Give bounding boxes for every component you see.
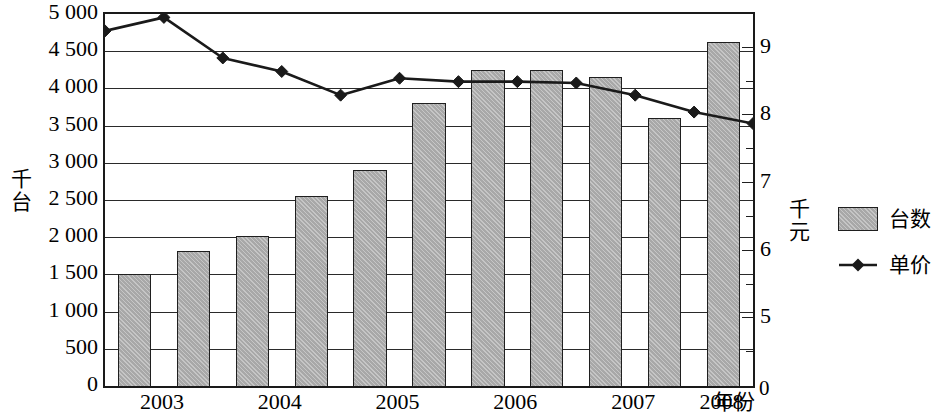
legend-item[interactable]: 单价 xyxy=(838,242,946,288)
right-axis-tick-label: 6 xyxy=(760,238,782,260)
bar xyxy=(295,196,328,386)
left-axis-tick-label: 2 500 xyxy=(18,187,98,209)
left-axis-tick-label: 3 500 xyxy=(18,113,98,135)
x-axis-title: 年份 xyxy=(713,390,755,414)
right-axis-tick-label: 9 xyxy=(760,35,782,57)
bar xyxy=(707,42,740,386)
right-axis-tick-label: 5 xyxy=(760,305,782,327)
x-axis-tick-label: 2005 xyxy=(353,390,443,414)
x-axis-tick-labels: 200320042005200620072008 xyxy=(103,390,755,415)
x-axis-tick-label: 2006 xyxy=(470,390,560,414)
line-marker xyxy=(452,76,464,88)
plot-area xyxy=(103,12,755,388)
legend-item-label: 单价 xyxy=(889,254,931,277)
line-marker xyxy=(217,52,229,64)
line-marker xyxy=(105,25,111,37)
right-axis-tick-label: 8 xyxy=(760,102,782,124)
right-axis-tick-mark xyxy=(746,284,753,285)
left-axis-tick-label: 1 000 xyxy=(18,299,98,321)
left-axis-tick-label: 0 xyxy=(18,373,98,395)
line-marker xyxy=(570,77,582,89)
x-axis-tick-label: 2003 xyxy=(117,390,207,414)
chart-root: 千台 千元 5 0004 5004 0003 5003 0002 5002 00… xyxy=(0,0,946,415)
line-marker xyxy=(629,89,641,101)
right-axis-tick-mark xyxy=(742,317,753,318)
left-axis-tick-label: 1 500 xyxy=(18,261,98,283)
left-axis-tick-label: 5 000 xyxy=(18,1,98,23)
right-axis-tick-mark xyxy=(742,250,753,251)
right-axis-zero-label: 0 xyxy=(759,377,770,399)
x-axis-tick-label: 2007 xyxy=(588,390,678,414)
bar xyxy=(471,70,504,386)
bar xyxy=(412,103,445,386)
line-marker xyxy=(747,118,753,130)
plot-inner xyxy=(105,14,753,386)
bar xyxy=(118,274,151,386)
line-marker xyxy=(688,106,700,118)
legend-item-label: 台数 xyxy=(889,208,931,231)
x-axis-tick-label: 2004 xyxy=(235,390,325,414)
right-axis-tick-mark xyxy=(742,47,753,48)
line-marker xyxy=(394,72,406,84)
right-axis-tick-mark xyxy=(746,148,753,149)
gridline xyxy=(105,88,753,89)
legend: 台数单价 xyxy=(838,196,946,288)
right-axis-tick-mark xyxy=(742,114,753,115)
line-marker xyxy=(511,76,523,88)
gridline xyxy=(105,51,753,52)
left-axis-tick-labels: 5 0004 5004 0003 5003 0002 5002 0001 500… xyxy=(14,0,98,415)
bar xyxy=(353,170,386,386)
right-axis-tick-mark xyxy=(746,81,753,82)
bar-swatch-icon xyxy=(838,207,878,231)
bar xyxy=(177,251,210,386)
bar xyxy=(589,77,622,386)
legend-item[interactable]: 台数 xyxy=(838,196,946,242)
left-axis-tick-label: 2 000 xyxy=(18,224,98,246)
right-axis-tick-mark xyxy=(742,182,753,183)
left-axis-tick-label: 4 000 xyxy=(18,75,98,97)
bar xyxy=(236,236,269,386)
left-axis-tick-label: 4 500 xyxy=(18,38,98,60)
right-axis-tick-labels: 98765 xyxy=(760,0,790,415)
line-diamond-swatch-icon xyxy=(838,253,878,277)
right-axis-tick-mark xyxy=(746,351,753,352)
right-axis-tick-label: 7 xyxy=(760,170,782,192)
line-marker xyxy=(335,89,347,101)
left-axis-tick-label: 3 000 xyxy=(18,150,98,172)
line-marker xyxy=(158,14,170,23)
line-marker xyxy=(276,65,288,77)
right-axis-tick-mark xyxy=(746,216,753,217)
bar xyxy=(530,70,563,386)
left-axis-tick-label: 500 xyxy=(18,336,98,358)
bar xyxy=(648,118,681,386)
